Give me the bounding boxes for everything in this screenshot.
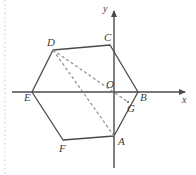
dashed-segment-d-a bbox=[53, 50, 114, 136]
vertex-label-e: E bbox=[23, 91, 31, 103]
dashed-segment-d-g bbox=[53, 50, 128, 102]
vertex-label-c: C bbox=[104, 31, 112, 43]
geometry-figure-svg: x y O A B C D E F G bbox=[0, 0, 196, 175]
vertex-label-b: B bbox=[140, 91, 147, 103]
vertex-label-a: A bbox=[117, 135, 125, 147]
point-label-g: G bbox=[127, 102, 135, 114]
vertex-label-f: F bbox=[58, 142, 66, 154]
x-axis-label: x bbox=[181, 94, 187, 105]
origin-label-o: O bbox=[106, 78, 114, 90]
geometry-figure-canvas: x y O A B C D E F G bbox=[0, 0, 196, 175]
y-axis-label: y bbox=[102, 3, 108, 14]
vertex-label-d: D bbox=[46, 36, 55, 48]
